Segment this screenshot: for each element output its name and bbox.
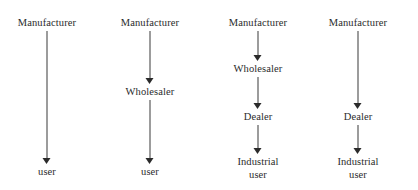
flow-arrow-icon — [254, 125, 263, 154]
node-label: Industrial user — [308, 156, 408, 181]
arrow-head-icon — [146, 158, 154, 164]
arrow-head-icon — [354, 103, 362, 109]
flow-arrow-icon — [146, 100, 155, 164]
flow-arrow-icon — [146, 31, 155, 84]
arrow-shaft — [47, 31, 48, 159]
arrow-shaft — [150, 31, 151, 79]
node-label: user — [0, 166, 97, 179]
channel-direct-channel: Manufactureruser — [0, 0, 97, 190]
flow-arrow-icon — [254, 31, 263, 61]
distribution-channel-diagram: ManufactureruserManufacturerWholesalerus… — [0, 0, 418, 190]
arrow-head-icon — [254, 103, 262, 109]
arrow-shaft — [258, 31, 259, 56]
flow-arrow-icon — [354, 125, 363, 154]
arrow-head-icon — [146, 78, 154, 84]
node-label: Wholesaler — [100, 86, 200, 99]
channel-dealer-channel: ManufacturerDealerIndustrial user — [308, 0, 408, 190]
node-label: Dealer — [208, 111, 308, 124]
node-label: Industrial user — [208, 156, 308, 181]
channel-wholesaler-channel: ManufacturerWholesaleruser — [100, 0, 200, 190]
arrow-head-icon — [43, 158, 51, 164]
arrow-shaft — [358, 125, 359, 149]
arrow-shaft — [358, 31, 359, 104]
node-label: user — [100, 166, 200, 179]
arrow-head-icon — [354, 148, 362, 154]
node-label: Manufacturer — [208, 17, 308, 30]
node-label: Wholesaler — [208, 63, 308, 76]
flow-arrow-icon — [43, 31, 52, 164]
node-label: Dealer — [308, 111, 408, 124]
arrow-head-icon — [254, 148, 262, 154]
node-label: Manufacturer — [0, 17, 97, 30]
flow-arrow-icon — [354, 31, 363, 109]
node-label: Manufacturer — [308, 17, 408, 30]
arrow-shaft — [258, 77, 259, 104]
node-label: Manufacturer — [100, 17, 200, 30]
arrow-shaft — [150, 100, 151, 159]
arrow-shaft — [258, 125, 259, 149]
arrow-head-icon — [254, 55, 262, 61]
channel-wholesaler-dealer-channel: ManufacturerWholesalerDealerIndustrial u… — [208, 0, 308, 190]
flow-arrow-icon — [254, 77, 263, 109]
